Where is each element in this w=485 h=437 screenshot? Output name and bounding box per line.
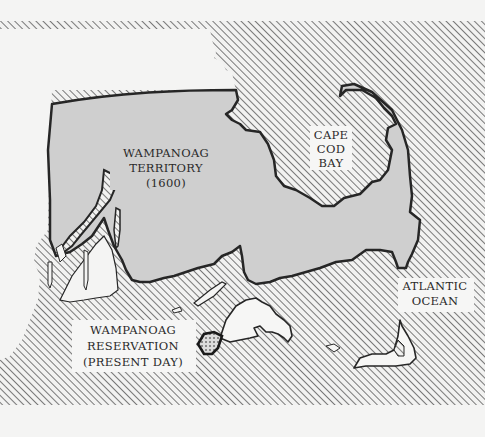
label-atlantic-ocean-line2: OCEAN [412, 294, 459, 308]
label-territory-line2: TERRITORY [129, 161, 203, 175]
label-territory-line3: (1600) [146, 176, 186, 190]
label-reservation: WAMPANOAG RESERVATION (PRESENT DAY) [72, 320, 196, 372]
mainland-west [0, 29, 236, 90]
aquidneck-island [84, 250, 88, 290]
label-cape-cod-bay-line2: COD [317, 142, 345, 156]
sakonnet-river [114, 208, 120, 248]
label-territory: WAMPANOAG TERRITORY (1600) [110, 142, 222, 190]
label-cape-cod-bay-line3: BAY [319, 156, 344, 170]
label-reservation-line2: RESERVATION [87, 339, 179, 353]
wampanoag-map: WAMPANOAG TERRITORY (1600) CAPE COD BAY … [0, 0, 485, 437]
label-atlantic-ocean: ATLANTIC OCEAN [398, 278, 474, 312]
label-reservation-line1: WAMPANOAG [90, 323, 176, 337]
label-cape-cod-bay: CAPE COD BAY [310, 126, 352, 170]
label-cape-cod-bay-line1: CAPE [314, 128, 348, 142]
label-reservation-line3: (PRESENT DAY) [83, 355, 183, 369]
label-territory-line1: WAMPANOAG [123, 146, 209, 160]
map-top-border [0, 21, 210, 28]
label-atlantic-ocean-line1: ATLANTIC [402, 279, 468, 293]
conanicut-island [48, 262, 52, 288]
